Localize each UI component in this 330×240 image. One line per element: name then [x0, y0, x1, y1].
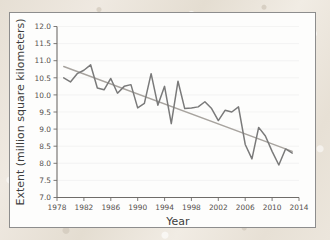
y-axis-label: Extent (million square kilometers): [14, 18, 27, 205]
trend-line-series: [64, 67, 293, 152]
ytick-label-11-0: 11.0: [35, 56, 52, 65]
xtick-label-2010: 2010: [263, 203, 282, 212]
ytick-label-10-5: 10.5: [35, 74, 52, 83]
ytick-label-10-0: 10.0: [35, 91, 52, 100]
xtick-label-1994: 1994: [155, 203, 174, 212]
chart-figure: 12.0 11.5 11.0 10.5 10.0 9.5 9.0 8.5 8.0…: [10, 13, 317, 229]
xtick-label-1982: 1982: [74, 203, 93, 212]
ytick-label-7-0: 7.0: [39, 193, 51, 202]
y-axis: 12.0 11.5 11.0 10.5 10.0 9.5 9.0 8.5 8.0…: [35, 22, 57, 202]
x-axis: 1978 1982 1986 1990 1994 1998 2002 2006 …: [48, 198, 309, 212]
page-background: 12.0 11.5 11.0 10.5 10.0 9.5 9.0 8.5 8.0…: [0, 0, 330, 240]
xtick-label-2006: 2006: [236, 203, 255, 212]
xtick-label-2014: 2014: [290, 203, 309, 212]
xtick-label-2002: 2002: [209, 203, 228, 212]
ytick-label-12-0: 12.0: [35, 22, 52, 31]
xtick-label-1986: 1986: [101, 203, 120, 212]
ytick-label-8-5: 8.5: [39, 142, 51, 151]
ytick-label-11-5: 11.5: [35, 39, 52, 48]
ytick-label-9-0: 9.0: [39, 125, 51, 134]
xtick-label-1990: 1990: [128, 203, 147, 212]
ytick-label-9-5: 9.5: [39, 108, 51, 117]
ytick-label-7-5: 7.5: [39, 176, 51, 185]
figure-card: 12.0 11.5 11.0 10.5 10.0 9.5 9.0 8.5 8.0…: [9, 12, 316, 228]
ytick-label-8-0: 8.0: [39, 159, 51, 168]
xtick-label-1998: 1998: [182, 203, 201, 212]
x-axis-label: Year: [165, 215, 190, 228]
gridlines: [57, 27, 299, 181]
xtick-label-1978: 1978: [48, 203, 67, 212]
